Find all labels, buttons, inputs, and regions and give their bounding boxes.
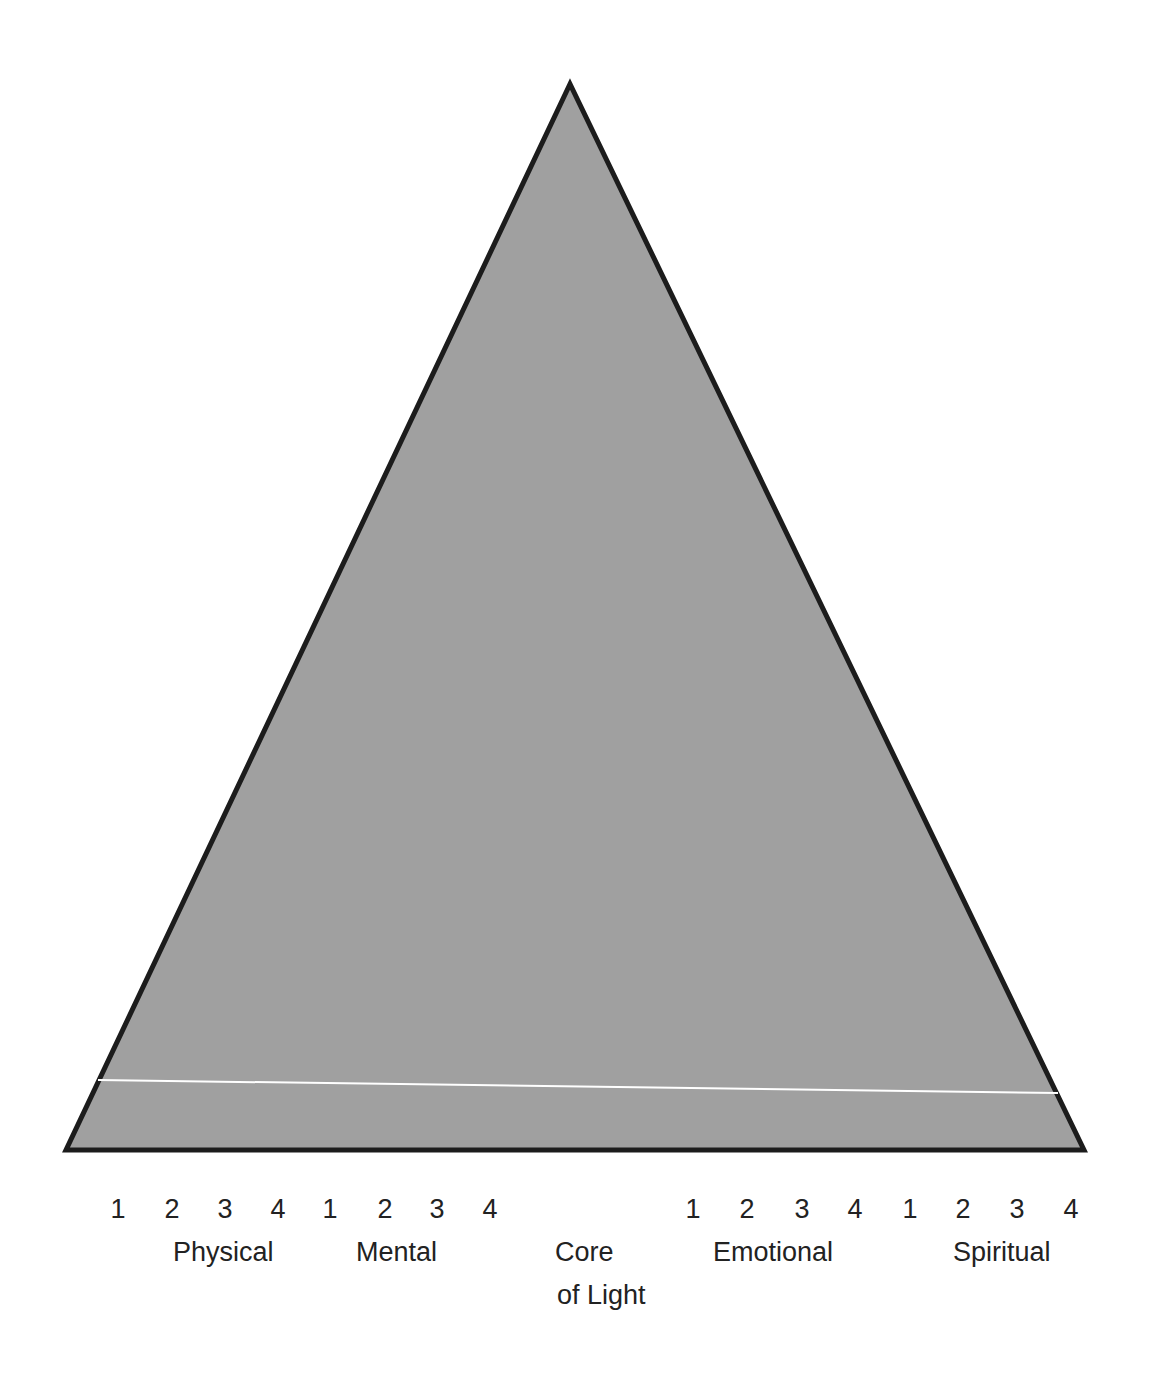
mental-label: Mental <box>356 1239 437 1266</box>
emotional-digit-3: 3 <box>794 1196 809 1223</box>
emotional-label: Emotional <box>713 1239 833 1266</box>
spiritual-digit-4: 4 <box>1063 1196 1078 1223</box>
spiritual-digit-1: 1 <box>902 1196 917 1223</box>
mental-digit-3: 3 <box>429 1196 444 1223</box>
physical-digit-1: 1 <box>110 1196 125 1223</box>
core-label-line2: of Light <box>557 1282 646 1309</box>
physical-digit-2: 2 <box>164 1196 179 1223</box>
physical-digit-4: 4 <box>270 1196 285 1223</box>
emotional-digit-2: 2 <box>739 1196 754 1223</box>
physical-label: Physical <box>173 1239 274 1266</box>
spiritual-label: Spiritual <box>953 1239 1051 1266</box>
emotional-digit-4: 4 <box>847 1196 862 1223</box>
pyramid-diagram <box>0 0 1149 1383</box>
spiritual-digit-2: 2 <box>955 1196 970 1223</box>
mental-digit-4: 4 <box>482 1196 497 1223</box>
pyramid-triangle <box>66 84 1084 1150</box>
core-label-line1: Core <box>555 1239 614 1266</box>
mental-digit-1: 1 <box>322 1196 337 1223</box>
mental-digit-2: 2 <box>377 1196 392 1223</box>
spiritual-digit-3: 3 <box>1009 1196 1024 1223</box>
physical-digit-3: 3 <box>217 1196 232 1223</box>
emotional-digit-1: 1 <box>685 1196 700 1223</box>
